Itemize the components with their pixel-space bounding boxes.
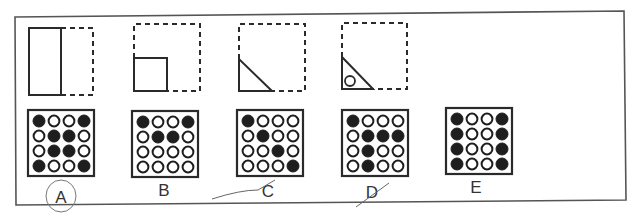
empty-dot bbox=[393, 116, 404, 127]
filled-dot bbox=[496, 143, 508, 155]
empty-dot bbox=[153, 147, 164, 158]
filled-dot bbox=[377, 130, 389, 142]
filled-dot bbox=[362, 160, 374, 172]
empty-dot bbox=[183, 162, 194, 173]
empty-dot bbox=[64, 161, 75, 172]
empty-dot bbox=[363, 116, 374, 127]
filled-dot bbox=[451, 158, 463, 170]
empty-dot bbox=[153, 162, 164, 173]
filled-dot bbox=[48, 145, 60, 157]
empty-dot bbox=[168, 117, 179, 128]
empty-dot bbox=[153, 117, 164, 128]
option-c[interactable]: C bbox=[237, 110, 303, 201]
filled-dot bbox=[63, 145, 75, 157]
empty-dot bbox=[288, 116, 299, 127]
filled-dot bbox=[392, 130, 404, 142]
filled-dot bbox=[496, 158, 508, 170]
filled-dot bbox=[63, 130, 75, 142]
empty-dot bbox=[467, 114, 478, 125]
filled-dot bbox=[242, 115, 254, 127]
empty-dot bbox=[34, 146, 45, 157]
empty-dot bbox=[243, 131, 254, 142]
empty-dot bbox=[64, 116, 75, 127]
sequence-figure-3 bbox=[239, 24, 305, 91]
empty-dot bbox=[258, 116, 269, 127]
empty-dot bbox=[49, 161, 60, 172]
option-label: C bbox=[262, 182, 274, 201]
empty-dot bbox=[378, 161, 389, 172]
puzzle-canvas: ABCDE bbox=[0, 0, 631, 216]
filled-dot bbox=[272, 145, 284, 157]
empty-dot bbox=[138, 147, 149, 158]
filled-dot bbox=[347, 115, 359, 127]
filled-dot bbox=[451, 113, 463, 125]
option-label: E bbox=[470, 178, 481, 197]
empty-dot bbox=[467, 129, 478, 140]
empty-dot bbox=[393, 161, 404, 172]
empty-dot bbox=[482, 129, 493, 140]
filled-dot bbox=[287, 160, 299, 172]
empty-dot bbox=[482, 159, 493, 170]
option-a[interactable]: A bbox=[28, 110, 94, 207]
filled-dot bbox=[137, 116, 149, 128]
answer-options: ABCDE bbox=[28, 108, 512, 207]
empty-dot bbox=[243, 161, 254, 172]
empty-dot bbox=[34, 131, 45, 142]
empty-dot bbox=[273, 131, 284, 142]
empty-dot bbox=[168, 162, 179, 173]
filled-dot bbox=[182, 116, 194, 128]
empty-dot bbox=[393, 146, 404, 157]
empty-dot bbox=[348, 161, 359, 172]
sequence-figure-2 bbox=[134, 24, 200, 91]
empty-dot bbox=[258, 146, 269, 157]
option-e[interactable]: E bbox=[446, 108, 512, 197]
filled-dot bbox=[78, 160, 90, 172]
filled-dot bbox=[78, 115, 90, 127]
sequence-figure-4 bbox=[342, 23, 407, 89]
empty-dot bbox=[348, 146, 359, 157]
empty-dot bbox=[273, 116, 284, 127]
empty-dot bbox=[243, 146, 254, 157]
outer-frame bbox=[15, 11, 626, 205]
empty-dot bbox=[482, 144, 493, 155]
empty-dot bbox=[183, 147, 194, 158]
filled-dot bbox=[257, 130, 269, 142]
empty-dot bbox=[467, 159, 478, 170]
filled-dot bbox=[496, 113, 508, 125]
empty-dot bbox=[138, 132, 149, 143]
filled-dot bbox=[48, 130, 60, 142]
empty-dot bbox=[49, 116, 60, 127]
option-label: A bbox=[55, 188, 67, 207]
filled-dot bbox=[362, 130, 374, 142]
option-b[interactable]: B bbox=[132, 111, 198, 200]
filled-dot bbox=[33, 115, 45, 127]
empty-dot bbox=[348, 131, 359, 142]
empty-dot bbox=[168, 147, 179, 158]
empty-dot bbox=[258, 161, 269, 172]
filled-dot bbox=[451, 143, 463, 155]
filled-dot bbox=[496, 128, 508, 140]
filled-dot bbox=[33, 160, 45, 172]
empty-dot bbox=[183, 132, 194, 143]
empty-dot bbox=[79, 146, 90, 157]
empty-dot bbox=[378, 146, 389, 157]
filled-dot bbox=[451, 128, 463, 140]
option-d[interactable]: D bbox=[342, 110, 408, 202]
empty-dot bbox=[273, 161, 284, 172]
empty-dot bbox=[138, 162, 149, 173]
filled-dot bbox=[167, 131, 179, 143]
filled-dot bbox=[362, 145, 374, 157]
empty-dot bbox=[378, 116, 389, 127]
empty-dot bbox=[288, 131, 299, 142]
empty-dot bbox=[288, 146, 299, 157]
empty-dot bbox=[79, 131, 90, 142]
sequence-figure-1 bbox=[29, 28, 93, 95]
option-label: B bbox=[158, 181, 169, 200]
empty-dot bbox=[482, 114, 493, 125]
filled-dot bbox=[152, 131, 164, 143]
empty-dot bbox=[467, 144, 478, 155]
